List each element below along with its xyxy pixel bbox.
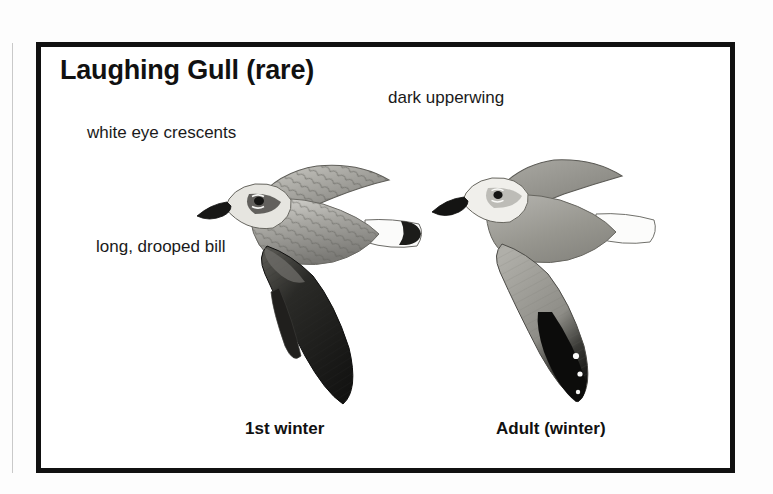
illustration-plate-frame: Laughing Gull (rare) white eye crescents… <box>36 42 735 473</box>
figure-caption-adult-winter: Adult (winter) <box>496 419 606 439</box>
page-margin-rule <box>12 43 13 473</box>
figure-caption-first-winter: 1st winter <box>245 419 324 439</box>
callout-dark-upperwing: dark upperwing <box>388 88 504 108</box>
page-title: Laughing Gull (rare) <box>60 55 314 86</box>
plate-inner: Laughing Gull (rare) white eye crescents… <box>41 47 730 468</box>
bird-illustration-first-winter <box>193 142 423 412</box>
callout-white-eye-crescents: white eye crescents <box>87 123 236 143</box>
scanned-page: Laughing Gull (rare) white eye crescents… <box>0 0 773 494</box>
bird-illustration-adult-winter <box>426 142 656 412</box>
